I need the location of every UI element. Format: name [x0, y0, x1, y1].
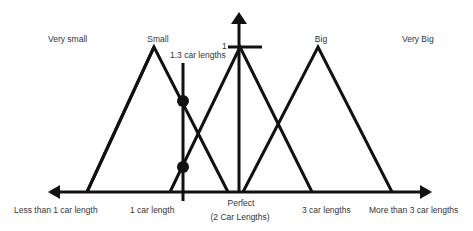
x-axis-right-arrow-icon	[420, 185, 432, 199]
x-label-3-car-lengths: 3 car lengths	[302, 206, 351, 215]
intersection-dot-small	[177, 95, 189, 107]
label-very-big: Very Big	[402, 35, 434, 44]
y-axis-up-arrow-icon	[231, 12, 247, 24]
label-big: Big	[315, 35, 327, 44]
intersection-dot-perfect	[177, 161, 189, 173]
label-small: Small	[147, 35, 168, 44]
x-label-1-car-length: 1 car length	[130, 206, 174, 215]
x-label-more-than-3: More than 3 car lengths	[369, 206, 458, 215]
x-axis-left-arrow-icon	[48, 185, 60, 199]
x-label-less-than-1: Less than 1 car length	[14, 206, 98, 215]
small-membership-triangle	[87, 47, 228, 192]
x-label-perfect: Perfect	[228, 199, 255, 208]
x-label-2-car-lengths: (2 Car Lengths)	[210, 213, 269, 222]
big-membership-triangle	[243, 47, 392, 192]
label-very-small: Very small	[48, 35, 87, 44]
input-marker-label: 1.3 car lengths	[170, 51, 226, 60]
